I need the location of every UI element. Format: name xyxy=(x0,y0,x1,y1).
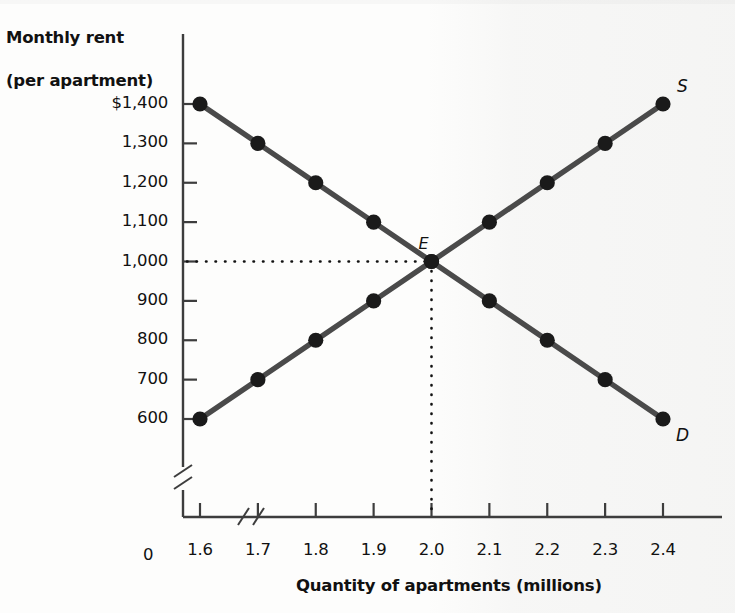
supply-demand-chart xyxy=(0,0,735,613)
